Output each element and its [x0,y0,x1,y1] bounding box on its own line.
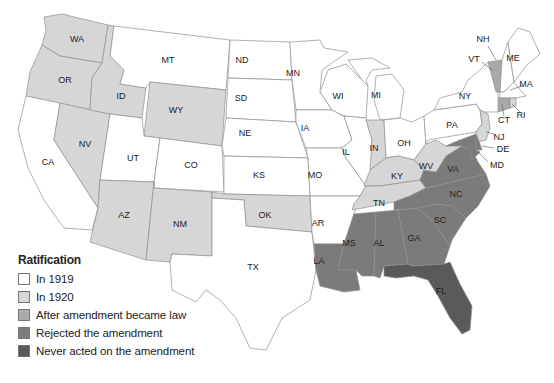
label-WV: WV [419,161,434,171]
label-MN: MN [286,68,300,78]
label-NV: NV [79,139,92,149]
legend-label: In 1919 [36,273,74,285]
legend-item-1920: In 1920 [18,288,194,306]
legend: Ratification In 1919 In 1920 After amend… [18,253,194,360]
label-TX: TX [247,262,259,272]
label-TN: TN [373,198,385,208]
state-RI[interactable] [510,98,516,108]
label-KS: KS [253,170,265,180]
label-IL: IL [342,147,350,157]
label-MS: MS [342,238,356,248]
label-SD: SD [235,93,248,103]
label-WI: WI [333,91,344,101]
label-OH: OH [397,138,411,148]
label-NY: NY [459,91,472,101]
legend-item-rejected: Rejected the amendment [18,324,194,342]
label-ND: ND [236,55,249,65]
label-AZ: AZ [118,210,130,220]
label-FL: FL [436,286,447,296]
label-VA: VA [447,164,458,174]
legend-item-1919: In 1919 [18,270,194,288]
label-LA: LA [313,256,324,266]
label-IN: IN [370,143,379,153]
state-CT[interactable] [498,98,510,112]
label-OR: OR [58,75,72,85]
legend-swatch [18,291,30,303]
label-RI: RI [517,110,526,120]
legend-swatch [18,273,30,285]
legend-swatch [18,309,30,321]
label-WA: WA [70,34,84,44]
legend-item-never: Never acted on the amendment [18,342,194,360]
label-KY: KY [391,171,403,181]
state-WY[interactable] [144,82,226,146]
legend-item-after: After amendment became law [18,306,194,324]
label-VT: VT [468,54,480,64]
legend-swatch [18,345,30,357]
label-GA: GA [407,233,420,243]
label-PA: PA [446,120,457,130]
label-IA: IA [301,123,310,133]
label-MO: MO [308,170,323,180]
legend-label: After amendment became law [36,309,186,321]
label-MA: MA [519,79,533,89]
label-MT: MT [162,55,175,65]
state-KS[interactable] [224,156,310,196]
label-NH: NH [477,34,490,44]
label-OK: OK [258,210,271,220]
state-FL[interactable] [384,262,472,334]
label-NM: NM [173,219,187,229]
legend-label: Rejected the amendment [36,327,162,339]
state-NE[interactable] [222,118,308,158]
legend-swatch [18,327,30,339]
label-NJ: NJ [494,132,505,142]
label-SC: SC [434,215,447,225]
label-AR: AR [312,218,325,228]
label-NE: NE [239,128,252,138]
label-NC: NC [450,189,463,199]
legend-title: Ratification [18,253,194,267]
legend-label: Never acted on the amendment [36,345,194,357]
legend-label: In 1920 [36,291,74,303]
label-MI: MI [371,90,381,100]
label-UT: UT [127,153,139,163]
label-CO: CO [184,160,198,170]
label-ME: ME [506,53,520,63]
label-CT: CT [498,115,510,125]
label-MD: MD [490,160,504,170]
label-DE: DE [497,144,510,154]
label-WY: WY [169,105,184,115]
label-CA: CA [42,157,55,167]
label-AL: AL [373,238,384,248]
label-ID: ID [117,91,127,101]
